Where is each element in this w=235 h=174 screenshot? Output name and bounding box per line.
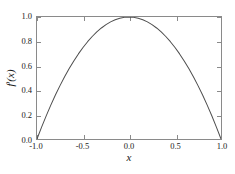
axis-tick [221, 135, 222, 139]
y-tick-label: 0.6 [21, 61, 32, 70]
data-curve [37, 17, 221, 139]
y-tick-label: 1.0 [21, 12, 32, 21]
plot-area [36, 16, 222, 140]
y-axis-title-prime: ′ [4, 82, 16, 84]
y-axis-title-base: f [4, 84, 16, 87]
figure-canvas: 0.0 0.2 0.4 0.6 0.8 1.0 -1.0 -0.5 0.0 0.… [0, 0, 235, 174]
x-axis-title: x [127, 152, 132, 163]
series-polyline [37, 17, 221, 139]
x-tick-label: 0.5 [170, 142, 181, 151]
axis-tick [221, 17, 222, 21]
y-tick-label: 0.4 [21, 86, 32, 95]
x-tick-label: -1.0 [29, 142, 42, 151]
x-tick-label: 0.0 [124, 142, 135, 151]
x-tick-label: -0.5 [76, 142, 89, 151]
y-tick-label: 0.8 [21, 37, 32, 46]
y-tick-label: 0.2 [21, 111, 32, 120]
y-axis-title-arg: (x) [4, 69, 16, 81]
axis-tick [217, 139, 221, 140]
x-tick-label: 1.0 [217, 142, 228, 151]
axis-tick [37, 139, 41, 140]
y-axis-title: f′(x) [5, 69, 16, 86]
